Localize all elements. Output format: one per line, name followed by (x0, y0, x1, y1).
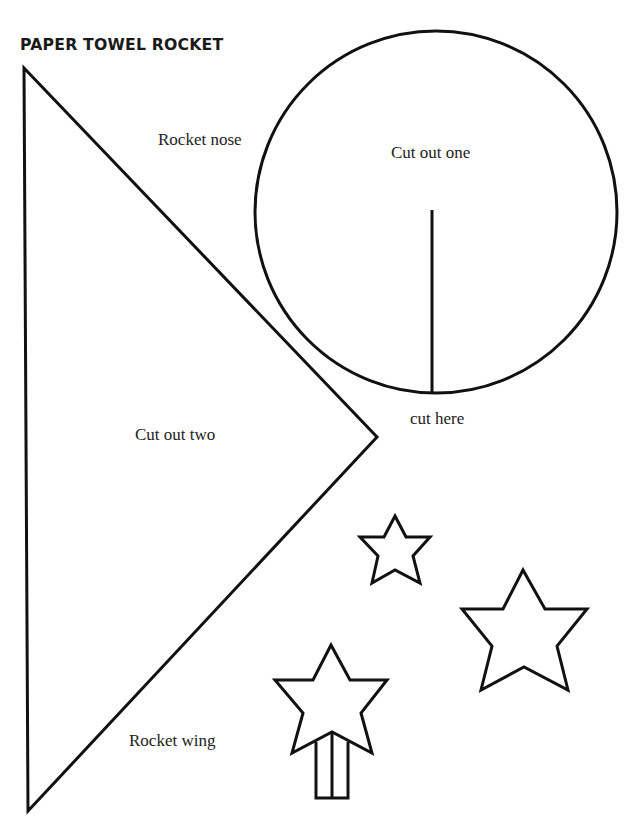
rocket-wing-label: Rocket wing (129, 731, 215, 751)
rocket-nose-circle (255, 31, 617, 393)
star-stick (316, 732, 348, 798)
worksheet-page: PAPER TOWEL ROCKET Rocket nose Cut out o… (0, 0, 630, 834)
cutout-shapes (0, 0, 630, 834)
cut-here-label: cut here (410, 409, 464, 429)
large-star (462, 570, 587, 690)
cut-out-one-label: Cut out one (391, 143, 470, 163)
rocket-nose-label: Rocket nose (158, 130, 242, 150)
cut-out-two-label: Cut out two (135, 425, 215, 445)
small-star (360, 516, 430, 583)
